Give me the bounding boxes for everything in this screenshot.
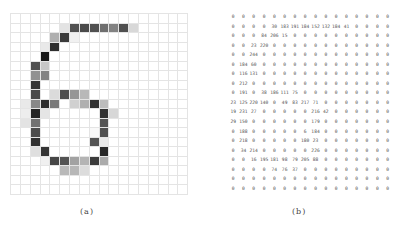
matrix-value: 0: [310, 184, 320, 194]
pixel-cell: [119, 24, 129, 34]
matrix-value: 0: [352, 165, 362, 175]
matrix-value: 0: [269, 136, 279, 146]
matrix-value: 0: [382, 60, 392, 70]
pixel-cell: [50, 109, 60, 119]
matrix-value: 0: [362, 174, 372, 184]
pixel-cell: [139, 100, 149, 110]
pixel-cell: [31, 119, 41, 129]
pixel-cell: [100, 43, 110, 53]
matrix-value: 0: [362, 107, 372, 117]
pixel-cell: [80, 147, 90, 157]
pixel-cell: [149, 147, 159, 157]
matrix-value: 0: [249, 12, 259, 22]
pixel-cell: [70, 166, 80, 176]
pixel-cell: [50, 71, 60, 81]
matrix-value: 0: [321, 41, 331, 51]
pixel-cell: [169, 62, 179, 72]
digit-six-pixel-grid: [10, 13, 188, 195]
pixel-cell: [31, 71, 41, 81]
matrix-value: 0: [290, 12, 300, 22]
matrix-value: 0: [321, 127, 331, 137]
pixel-cell: [80, 14, 90, 24]
matrix-value: 0: [372, 107, 382, 117]
matrix-value: 0: [341, 127, 351, 137]
pixel-cell: [159, 157, 169, 167]
pixel-cell: [129, 166, 139, 176]
matrix-value: 0: [362, 12, 372, 22]
matrix-value: 0: [352, 79, 362, 89]
pixel-cell: [90, 43, 100, 53]
matrix-value: 0: [310, 69, 320, 79]
matrix-value: 0: [310, 12, 320, 22]
matrix-value: 0: [372, 69, 382, 79]
pixel-cell: [80, 138, 90, 148]
matrix-value: 0: [279, 174, 289, 184]
pixel-cell: [31, 166, 41, 176]
matrix-value: 0: [228, 50, 238, 60]
pixel-cell: [41, 176, 51, 186]
pixel-cell: [90, 185, 100, 195]
pixel-cell: [21, 100, 31, 110]
pixel-cell: [80, 185, 90, 195]
pixel-cell: [129, 81, 139, 91]
pixel-cell: [31, 157, 41, 167]
matrix-value: 0: [300, 165, 310, 175]
pixel-cell: [90, 24, 100, 34]
pixel-cell: [169, 185, 179, 195]
pixel-cell: [11, 52, 21, 62]
pixel-cell: [90, 109, 100, 119]
matrix-value: 29: [228, 117, 238, 127]
pixel-cell: [129, 90, 139, 100]
matrix-value: 84: [259, 31, 269, 41]
pixel-cell: [31, 52, 41, 62]
pixel-cell: [41, 119, 51, 129]
matrix-value: 79: [290, 155, 300, 165]
matrix-value: 0: [382, 117, 392, 127]
matrix-value: 0: [290, 107, 300, 117]
matrix-value: 205: [300, 155, 310, 165]
matrix-value: 0: [228, 155, 238, 165]
matrix-value: 0: [290, 146, 300, 156]
matrix-value: 0: [310, 31, 320, 41]
pixel-cell: [90, 128, 100, 138]
pixel-cell: [100, 71, 110, 81]
pixel-cell: [41, 100, 51, 110]
matrix-value: 60: [249, 60, 259, 70]
matrix-value: 131: [249, 69, 259, 79]
pixel-cell: [60, 52, 70, 62]
pixel-grid-panel: [10, 13, 188, 195]
matrix-value: 0: [279, 60, 289, 70]
matrix-value: 0: [249, 31, 259, 41]
matrix-value: 75: [290, 88, 300, 98]
matrix-value: 0: [300, 50, 310, 60]
pixel-cell: [21, 14, 31, 24]
matrix-value: 111: [279, 88, 289, 98]
pixel-cell: [139, 109, 149, 119]
matrix-value: 0: [249, 174, 259, 184]
pixel-cell: [80, 81, 90, 91]
pixel-cell: [70, 81, 80, 91]
pixel-cell: [119, 81, 129, 91]
matrix-value: 0: [290, 41, 300, 51]
matrix-value: 0: [269, 107, 279, 117]
matrix-value: 0: [290, 127, 300, 137]
matrix-value: 6: [300, 127, 310, 137]
matrix-value: 49: [279, 98, 289, 108]
matrix-value: 0: [341, 79, 351, 89]
pixel-cell: [50, 128, 60, 138]
pixel-cell: [11, 71, 21, 81]
pixel-cell: [129, 71, 139, 81]
matrix-value: 0: [321, 50, 331, 60]
pixel-cell: [50, 43, 60, 53]
matrix-value: 181: [269, 155, 279, 165]
pixel-cell: [41, 52, 51, 62]
pixel-cell: [100, 33, 110, 43]
pixel-cell: [70, 100, 80, 110]
pixel-cell: [159, 52, 169, 62]
matrix-value: 0: [372, 155, 382, 165]
matrix-value: 0: [249, 127, 259, 137]
matrix-value: 0: [341, 69, 351, 79]
pixel-cell: [169, 43, 179, 53]
pixel-cell: [21, 147, 31, 157]
matrix-value: 0: [352, 184, 362, 194]
